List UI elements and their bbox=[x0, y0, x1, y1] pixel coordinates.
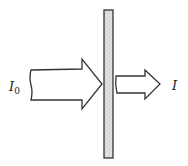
transmitted-intensity-label: I bbox=[172, 78, 177, 93]
incident-intensity-label: I0 bbox=[9, 79, 20, 94]
attenuation-diagram bbox=[0, 0, 188, 166]
transmitted-beam-arrow bbox=[116, 70, 160, 99]
absorbing-slab bbox=[104, 10, 113, 158]
incident-subscript: 0 bbox=[14, 86, 20, 96]
transmitted-symbol: I bbox=[172, 78, 177, 93]
incident-beam-arrow bbox=[30, 59, 102, 109]
